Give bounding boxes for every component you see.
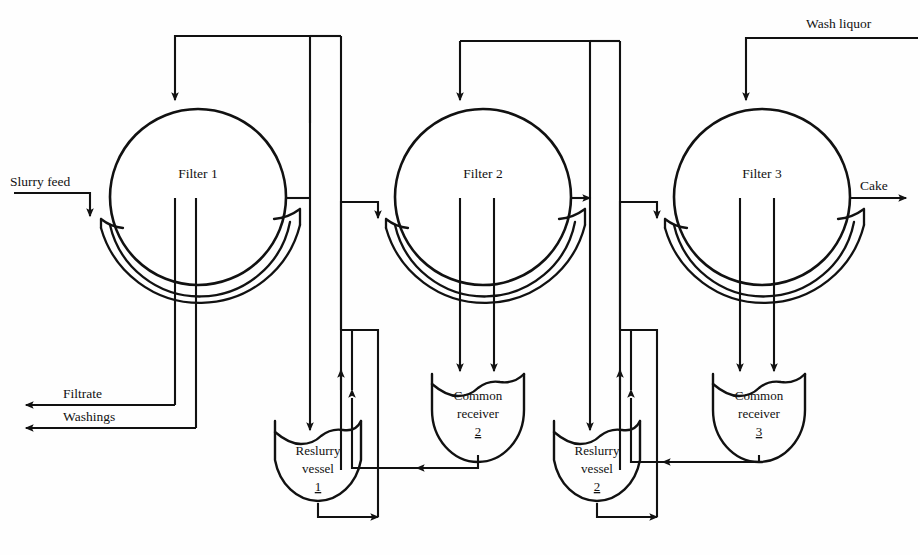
slurry-feed-line: [14, 193, 90, 216]
filter-3-unit[interactable]: [665, 109, 864, 371]
reslurry-1-line2: vessel: [302, 461, 334, 476]
receiver-3-line1: Common: [735, 388, 784, 403]
receiver-3-recycle: [631, 398, 663, 462]
filter-1-label: Filter 1: [178, 166, 217, 181]
receiver-3-line2: receiver: [738, 406, 781, 421]
reslurry-2-number: 2: [594, 479, 601, 494]
common-receiver-2-label: Common receiver 2: [454, 388, 503, 439]
filter-2-trough-feed: [341, 202, 378, 330]
reslurry-1-line1: Reslurry: [296, 443, 341, 458]
washings-label: Washings: [63, 409, 115, 424]
slurry-feed-label: Slurry feed: [10, 174, 71, 189]
reslurry-2-line1: Reslurry: [575, 443, 620, 458]
receiver-3-number: 3: [756, 424, 763, 439]
flowsheet-canvas: Slurry feed Wash liquor Cake Filtrate Wa…: [0, 0, 920, 555]
wash-liquor-line: [746, 38, 918, 100]
reslurry-vessel-2-outlet: [597, 503, 657, 517]
common-receiver-3-label: Common receiver 3: [735, 388, 784, 439]
process-flow-diagram: Slurry feed Wash liquor Cake Filtrate Wa…: [0, 0, 920, 555]
reslurry-2-line2: vessel: [581, 461, 613, 476]
filter-2-unit[interactable]: [386, 109, 585, 371]
filter-1-unit[interactable]: [101, 109, 300, 428]
filtrate-label: Filtrate: [63, 386, 102, 401]
reslurry-vessel-2-rim: [554, 421, 640, 444]
receiver-2-line2: receiver: [457, 406, 500, 421]
cake-label: Cake: [860, 178, 888, 193]
wash-liquor-label: Wash liquor: [806, 16, 872, 31]
reslurry-vessel-1-label: Reslurry vessel 1: [296, 443, 341, 494]
filter-1-drum[interactable]: [110, 109, 286, 285]
filter-1-top-feed: [175, 36, 310, 100]
filter-3-drum[interactable]: [674, 109, 850, 285]
reslurry-vessel-1-outlet: [318, 503, 378, 517]
filter-3-trough-feed: [620, 202, 657, 330]
reslurry-1-number: 1: [315, 479, 322, 494]
filter-3-label: Filter 3: [742, 166, 782, 181]
receiver-2-number: 2: [475, 424, 482, 439]
reslurry-vessel-1-rim: [275, 421, 361, 444]
filter-2-label: Filter 2: [463, 166, 502, 181]
reslurry-vessel-2-label: Reslurry vessel 2: [575, 443, 620, 494]
filter-2-drum[interactable]: [395, 109, 571, 285]
receiver-2-line1: Common: [454, 388, 503, 403]
